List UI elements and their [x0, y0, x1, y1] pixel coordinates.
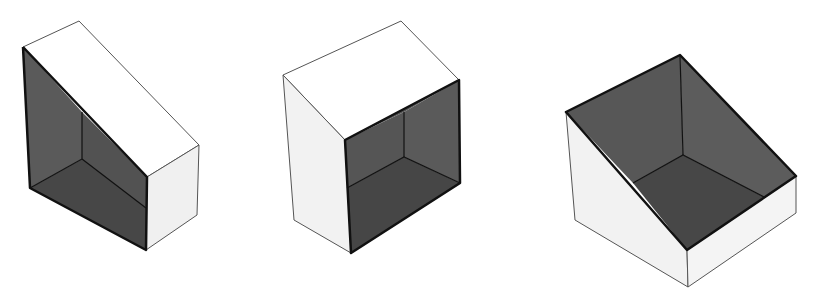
diagram-canvas [0, 0, 823, 301]
wedge-shape-3 [566, 55, 796, 287]
wedge-shape-2 [283, 21, 460, 253]
wedge-shape-1 [23, 21, 199, 250]
